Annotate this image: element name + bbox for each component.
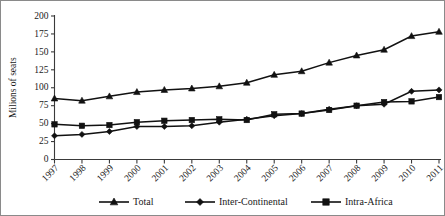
series-line	[55, 90, 440, 136]
y-tick-label: 75	[39, 100, 49, 110]
x-tick-label: 2000	[122, 163, 143, 184]
x-tick-label: 2001	[150, 163, 171, 184]
line-chart: 0255075100125150175200Milions of seats19…	[1, 1, 445, 216]
square-marker	[381, 99, 386, 104]
series-line	[55, 32, 440, 101]
square-marker	[52, 122, 57, 127]
x-tick-label: 1997	[40, 163, 61, 184]
diamond-marker	[436, 87, 442, 93]
x-tick-label: 2007	[315, 163, 336, 184]
x-tick-label: 2010	[397, 163, 418, 184]
diamond-marker	[52, 133, 58, 139]
square-marker	[272, 112, 277, 117]
x-tick-label: 2003	[205, 163, 226, 184]
x-tick-label: 2002	[177, 163, 198, 184]
diamond-marker	[161, 123, 167, 129]
square-marker	[436, 94, 441, 99]
square-marker	[244, 117, 249, 122]
diamond-marker	[79, 131, 85, 137]
x-tick-label: 2006	[287, 163, 308, 184]
x-tick-label: 1998	[67, 163, 88, 184]
chart-legend: TotalInter-ContinentalIntra-Africa	[99, 196, 393, 207]
y-tick-label: 0	[44, 154, 49, 164]
x-tick-label: 2004	[232, 163, 253, 184]
x-tick-label: 2005	[260, 163, 281, 184]
y-tick-label: 125	[34, 65, 49, 75]
square-marker	[409, 99, 414, 104]
chart-figure: 0255075100125150175200Milions of seats19…	[0, 0, 445, 216]
legend-diamond-marker	[197, 199, 204, 206]
legend-label: Total	[133, 196, 154, 207]
square-marker	[79, 123, 84, 128]
square-marker	[189, 117, 194, 122]
square-marker	[107, 122, 112, 127]
x-tick-label: 2011	[425, 163, 445, 183]
legend-square-marker	[323, 199, 329, 205]
x-tick-label: 1999	[95, 163, 116, 184]
legend-entry-total[interactable]: Total	[99, 196, 154, 207]
square-marker	[354, 103, 359, 108]
y-axis: 0255075100125150175200	[34, 11, 54, 165]
y-axis-title: Milions of seats	[8, 57, 18, 118]
diamond-marker	[106, 129, 112, 135]
square-marker	[299, 111, 304, 116]
legend-label: Intra-Africa	[345, 196, 393, 207]
series-total	[51, 28, 442, 103]
y-tick-label: 150	[34, 47, 49, 57]
square-marker	[326, 107, 331, 112]
square-marker	[134, 119, 139, 124]
y-tick-label: 175	[34, 29, 49, 39]
legend-label: Inter-Continental	[219, 196, 288, 207]
square-marker	[162, 118, 167, 123]
y-tick-label: 100	[34, 82, 49, 92]
square-marker	[217, 117, 222, 122]
x-axis: 1997199819992000200120022003200420052006…	[40, 160, 445, 184]
diamond-marker	[189, 123, 195, 129]
y-tick-label: 200	[34, 11, 49, 21]
x-tick-label: 2009	[369, 163, 390, 184]
y-tick-label: 25	[39, 136, 49, 146]
legend-entry-inter-continental[interactable]: Inter-Continental	[185, 196, 288, 207]
x-tick-label: 2008	[342, 163, 363, 184]
series-intra-africa	[52, 94, 442, 128]
y-tick-label: 50	[39, 118, 49, 128]
triangle-marker	[436, 28, 443, 34]
diamond-marker	[409, 88, 415, 94]
legend-entry-intra-africa[interactable]: Intra-Africa	[311, 196, 393, 207]
